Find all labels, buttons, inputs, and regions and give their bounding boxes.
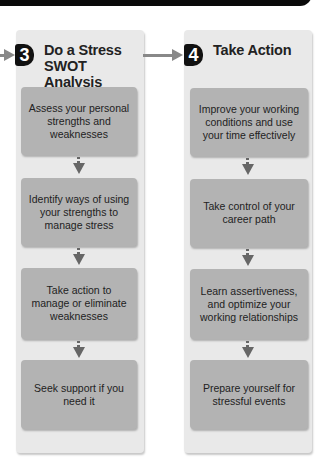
step-4-title: Take Action xyxy=(213,42,313,58)
header-bar xyxy=(0,0,312,6)
down-arrow-icon xyxy=(73,163,85,174)
step-3-item-2: Identify ways of using your strengths to… xyxy=(21,178,137,246)
step-3-item-2-label: Identify ways of using your strengths to… xyxy=(27,193,131,232)
step-4-item-1-label: Improve your working conditions and use … xyxy=(196,103,302,142)
step-4-item-2-label: Take control of your career path xyxy=(196,200,302,226)
down-arrow-icon xyxy=(73,254,85,265)
step-connector-arrow-icon xyxy=(172,49,183,61)
step-4-item-4: Prepare yourself for stressful events xyxy=(190,360,308,429)
down-arrow-icon xyxy=(73,347,85,358)
step-3-item-3-label: Take action to manage or eliminate weakn… xyxy=(27,284,131,323)
step-4-item-1: Improve your working conditions and use … xyxy=(190,88,308,156)
down-arrow-icon xyxy=(242,347,254,358)
down-arrow-icon xyxy=(242,164,254,175)
step-4-item-3-label: Learn assertiveness, and optimize your w… xyxy=(196,285,302,324)
step-4-item-4-label: Prepare yourself for stressful events xyxy=(196,382,302,408)
step-connector-line xyxy=(143,54,173,57)
step-3-item-1-label: Assess your personal strengths and weakn… xyxy=(27,102,131,141)
step-3-badge: 3 xyxy=(15,44,34,66)
step-3-item-3: Take action to manage or eliminate weakn… xyxy=(21,268,137,339)
step-3-item-4: Seek support if you need it xyxy=(21,360,137,429)
incoming-arrow-head-icon xyxy=(4,49,15,61)
step-3-item-4-label: Seek support if you need it xyxy=(27,382,131,408)
step-4-item-2: Take control of your career path xyxy=(190,179,308,247)
step-4-badge: 4 xyxy=(184,44,203,66)
step-4-item-3: Learn assertiveness, and optimize your w… xyxy=(190,269,308,339)
down-arrow-icon xyxy=(242,255,254,266)
step-3-item-1: Assess your personal strengths and weakn… xyxy=(21,87,137,155)
step-3-title: Do a Stress SWOT Analysis xyxy=(44,42,144,90)
